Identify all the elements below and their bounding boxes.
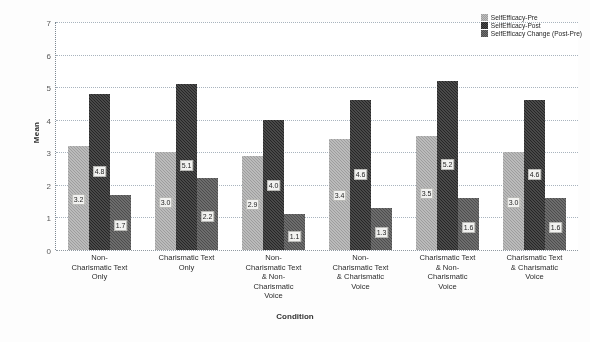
bar-value-label: 4.6 — [528, 169, 542, 180]
x-axis-tick-label: Non-Charismatic Text& Non-CharismaticVoi… — [230, 253, 317, 301]
y-axis-tick-label: 2 — [47, 181, 51, 190]
y-axis-tick-label: 3 — [47, 149, 51, 158]
bar-value-label: 2.9 — [246, 199, 260, 210]
bar-value-label: 1.6 — [549, 222, 563, 233]
bar-group: 3.55.21.6 — [404, 22, 491, 250]
bar[interactable]: 3.5 — [416, 136, 437, 250]
legend-swatch-icon — [481, 22, 488, 29]
bar-group: 3.05.12.2 — [143, 22, 230, 250]
bar[interactable]: 4.8 — [89, 94, 110, 250]
bar-value-label: 3.4 — [333, 190, 347, 201]
bar-value-label: 3.0 — [159, 197, 173, 208]
bar[interactable]: 4.6 — [350, 100, 371, 250]
legend-label: SelfEfficacy Change (Post-Pre) — [491, 30, 582, 37]
bar[interactable]: 1.6 — [545, 198, 566, 250]
bar-value-label: 1.3 — [375, 227, 389, 238]
y-axis-tick-label: 6 — [47, 51, 51, 60]
bar-value-label: 4.0 — [267, 180, 281, 191]
bar-value-label: 3.5 — [420, 188, 434, 199]
bar[interactable]: 2.9 — [242, 156, 263, 250]
x-axis-tick-label: Non-Charismatic Text& CharismaticVoice — [317, 253, 404, 301]
legend-label: SelfEfficacy-Post — [491, 22, 541, 29]
bar-groups: 3.24.81.73.05.12.22.94.01.13.44.61.33.55… — [56, 22, 578, 250]
bar-value-label: 4.8 — [93, 166, 107, 177]
bar[interactable]: 1.6 — [458, 198, 479, 250]
bar-value-label: 1.7 — [114, 220, 128, 231]
bar[interactable]: 3.0 — [503, 152, 524, 250]
bar-value-label: 5.1 — [180, 160, 194, 171]
bar[interactable]: 1.3 — [371, 208, 392, 250]
bar-group: 2.94.01.1 — [230, 22, 317, 250]
y-axis-title: Mean — [32, 103, 41, 163]
legend: SelfEfficacy-PreSelfEfficacy-PostSelfEff… — [481, 14, 582, 37]
bar-value-label: 1.1 — [288, 231, 302, 242]
bar[interactable]: 5.1 — [176, 84, 197, 250]
legend-item[interactable]: SelfEfficacy-Post — [481, 22, 582, 29]
bar-group: 3.04.61.6 — [491, 22, 578, 250]
y-axis-tick-label: 0 — [47, 247, 51, 256]
bar[interactable]: 5.2 — [437, 81, 458, 250]
legend-item[interactable]: SelfEfficacy Change (Post-Pre) — [481, 30, 582, 37]
bar-group: 3.44.61.3 — [317, 22, 404, 250]
chart-container: Mean 01234567 3.24.81.73.05.12.22.94.01.… — [0, 0, 590, 342]
bar[interactable]: 3.4 — [329, 139, 350, 250]
bar[interactable]: 3.0 — [155, 152, 176, 250]
x-axis-tick-label: Non-Charismatic TextOnly — [56, 253, 143, 301]
bar-value-label: 3.2 — [72, 194, 86, 205]
bar[interactable]: 2.2 — [197, 178, 218, 250]
bar-value-label: 5.2 — [441, 159, 455, 170]
legend-swatch-icon — [481, 14, 488, 21]
bar[interactable]: 3.2 — [68, 146, 89, 250]
legend-item[interactable]: SelfEfficacy-Pre — [481, 14, 582, 21]
bar-value-label: 4.6 — [354, 169, 368, 180]
bar-value-label: 3.0 — [507, 197, 521, 208]
y-axis-tick-label: 1 — [47, 214, 51, 223]
bar-group: 3.24.81.7 — [56, 22, 143, 250]
bar[interactable]: 4.6 — [524, 100, 545, 250]
bar[interactable]: 1.1 — [284, 214, 305, 250]
x-axis-tick-label: Charismatic Text& CharismaticVoice — [491, 253, 578, 301]
legend-label: SelfEfficacy-Pre — [491, 14, 538, 21]
bar[interactable]: 1.7 — [110, 195, 131, 250]
bar[interactable]: 4.0 — [263, 120, 284, 250]
gridline-0: 0 — [56, 250, 578, 251]
x-axis-tick-labels: Non-Charismatic TextOnlyCharismatic Text… — [56, 253, 578, 301]
plot-area: 01234567 3.24.81.73.05.12.22.94.01.13.44… — [56, 22, 578, 250]
bar-value-label: 2.2 — [201, 211, 215, 222]
x-axis-title: Condition — [0, 312, 590, 321]
x-axis-tick-label: Charismatic Text& Non-CharismaticVoice — [404, 253, 491, 301]
y-axis-tick-label: 7 — [47, 19, 51, 28]
y-axis-tick-label: 4 — [47, 116, 51, 125]
x-axis-tick-label: Charismatic TextOnly — [143, 253, 230, 301]
legend-swatch-icon — [481, 30, 488, 37]
bar-value-label: 1.6 — [462, 222, 476, 233]
y-axis-tick-label: 5 — [47, 84, 51, 93]
